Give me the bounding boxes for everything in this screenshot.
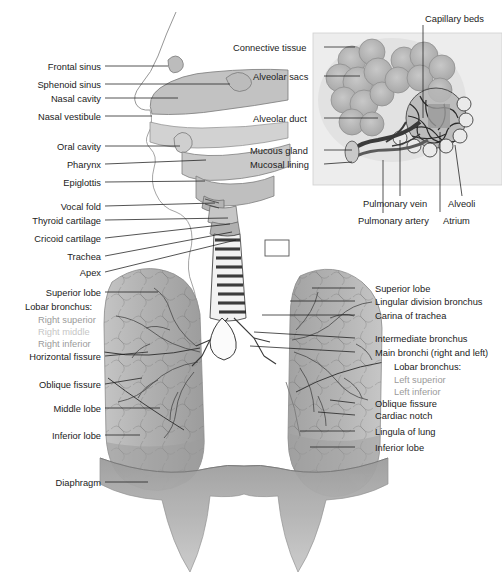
label-carina-of-trachea: Carina of trachea	[375, 311, 446, 322]
label-middle-lobe: Middle lobe	[53, 404, 101, 415]
label-lingula-of-lung: Lingula of lung	[375, 427, 435, 438]
label-frontal-sinus: Frontal sinus	[48, 62, 101, 73]
detail-region-box	[265, 240, 289, 256]
label-connective-tissue: Connective tissue	[233, 43, 306, 54]
trachea	[210, 234, 246, 321]
label-alveolar-sacs: Alveolar sacs	[253, 72, 308, 83]
label-oblique-fissure-right: Oblique fissure	[39, 380, 101, 391]
label-oblique-fissure-left: Oblique fissure	[375, 399, 437, 410]
label-trachea: Trachea	[67, 252, 101, 263]
label-left-superior: Left superior	[394, 375, 446, 386]
label-mucosal-lining: Mucosal lining	[250, 160, 309, 171]
right-lung	[96, 269, 210, 491]
leader-vocal-fold	[105, 203, 215, 206]
label-atrium: Atrium	[443, 216, 470, 227]
label-sphenoid-sinus: Sphenoid sinus	[37, 80, 101, 91]
leader-epiglottis	[105, 181, 205, 182]
atrium-region	[428, 104, 450, 128]
label-lobar-bronchus-left: Lobar bronchus:	[394, 362, 461, 373]
label-inferior-lobe-right: Inferior lobe	[52, 431, 101, 442]
label-epiglottis: Epiglottis	[63, 178, 101, 189]
label-mucous-gland: Mucous gland	[250, 146, 308, 157]
label-intermediate-bronchus: Intermediate bronchus	[375, 334, 468, 345]
label-right-superior: Right superior	[38, 315, 96, 326]
label-lobar-bronchus-right: Lobar bronchus:	[25, 302, 92, 313]
label-pharynx: Pharynx	[67, 160, 101, 171]
label-alveolar-duct: Alveolar duct	[253, 114, 307, 125]
label-superior-lobe-left: Superior lobe	[375, 284, 430, 295]
label-inferior-lobe-left: Inferior lobe	[375, 443, 424, 454]
label-nasal-cavity: Nasal cavity	[51, 94, 101, 105]
label-left-inferior: Left inferior	[394, 387, 441, 398]
alveoli-inset-panel	[313, 33, 502, 185]
label-oral-cavity: Oral cavity	[57, 142, 101, 153]
label-vocal-fold: Vocal fold	[61, 202, 101, 213]
label-lingular-division-bronchus: Lingular division bronchus	[375, 297, 483, 308]
label-diaphragm: Diaphragm	[56, 478, 101, 489]
label-superior-lobe-right: Superior lobe	[46, 288, 101, 299]
label-capillary-beds: Capillary beds	[425, 14, 484, 25]
respiratory-anatomy-figure: Frontal sinusSphenoid sinusNasal cavityN…	[0, 0, 502, 575]
label-main-bronchi: Main bronchi (right and left)	[375, 348, 488, 359]
label-horizontal-fissure: Horizontal fissure	[29, 352, 101, 363]
label-nasal-vestibule: Nasal vestibule	[38, 112, 101, 123]
label-thyroid-cartilage: Thyroid cartilage	[32, 216, 101, 227]
label-pulmonary-vein: Pulmonary vein	[363, 199, 427, 210]
label-alveoli: Alveoli	[448, 199, 475, 210]
label-apex: Apex	[80, 268, 101, 279]
carina	[210, 318, 236, 360]
label-cardiac-notch: Cardiac notch	[375, 411, 432, 422]
label-right-inferior: Right inferior	[38, 339, 91, 350]
label-pulmonary-artery: Pulmonary artery	[358, 216, 429, 227]
label-cricoid-cartilage: Cricoid cartilage	[34, 234, 101, 245]
label-right-middle: Right middle	[38, 327, 90, 338]
diaphragm	[100, 458, 388, 572]
